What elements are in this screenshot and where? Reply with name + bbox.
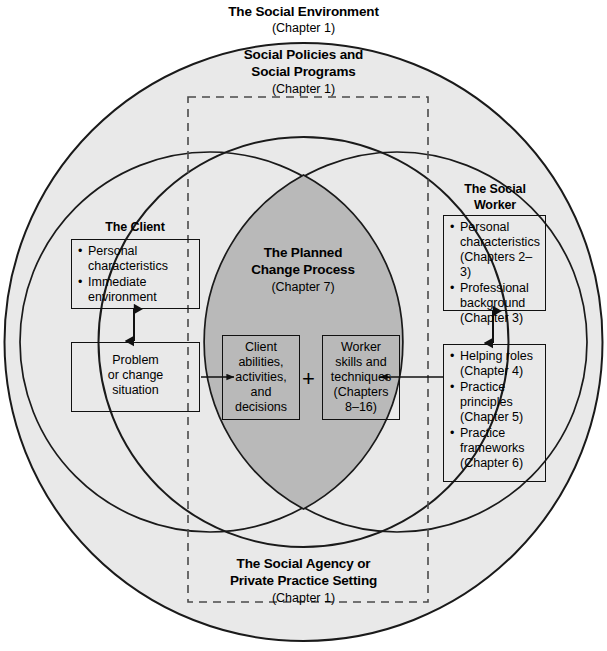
dashed-region-title-line2: Private Practice Setting xyxy=(0,573,607,589)
social-worker-skill-item: Practice frameworks (Chapter 6) xyxy=(460,426,541,471)
outer-ring-title: The Social Environment xyxy=(0,4,607,20)
outer-ring-chapter: (Chapter 1) xyxy=(0,21,607,36)
middle-ring-title-line2: Social Programs xyxy=(0,64,607,80)
client-abilities-line-3: activities, xyxy=(226,370,296,385)
center-title-line1: The Planned xyxy=(213,245,393,261)
problem-line-2: or change xyxy=(75,368,196,383)
plus-operator: + xyxy=(302,368,315,390)
social-worker-heading-line1: The Social xyxy=(435,182,555,197)
client-abilities-line-5: decisions xyxy=(226,400,296,415)
center-worker-skills-box: Worker skills and techniques (Chapters 8… xyxy=(322,335,400,420)
center-client-abilities-box: Client abilities, activities, and decisi… xyxy=(222,335,300,420)
client-attribute-item: Immediate environment xyxy=(88,275,195,305)
social-worker-attribute-item: Personal characteristics (Chapters 2–3) xyxy=(460,220,541,280)
social-worker-skill-item: Helping roles (Chapter 4) xyxy=(460,349,541,379)
client-attributes-box: Personal characteristics Immediate envir… xyxy=(71,239,200,309)
diagram-canvas: The Social Environment (Chapter 1) Socia… xyxy=(0,0,607,651)
client-attribute-item: Personal characteristics xyxy=(88,244,195,274)
client-heading: The Client xyxy=(70,220,200,235)
worker-skills-line-1: Worker xyxy=(326,340,396,355)
worker-skills-line-4: (Chapters xyxy=(326,385,396,400)
client-problem-box: Problem or change situation xyxy=(71,342,200,412)
client-abilities-line-2: abilities, xyxy=(226,355,296,370)
middle-ring-title-line1: Social Policies and xyxy=(0,47,607,63)
worker-skills-line-2: skills and xyxy=(326,355,396,370)
dashed-region-chapter: (Chapter 1) xyxy=(0,591,607,606)
problem-line-3: situation xyxy=(75,383,196,398)
middle-ring-chapter: (Chapter 1) xyxy=(0,82,607,97)
social-worker-skill-item: Practice principles (Chapter 5) xyxy=(460,380,541,425)
worker-skills-line-5: 8–16) xyxy=(326,400,396,415)
client-abilities-line-4: and xyxy=(226,385,296,400)
social-worker-attributes-box: Personal characteristics (Chapters 2–3) … xyxy=(443,215,546,311)
social-worker-attribute-item: Professional background (Chapter 3) xyxy=(460,281,541,326)
social-worker-skills-box: Helping roles (Chapter 4) Practice princ… xyxy=(443,344,546,482)
client-abilities-line-1: Client xyxy=(226,340,296,355)
center-title-line2: Change Process xyxy=(213,262,393,278)
problem-line-1: Problem xyxy=(75,353,196,368)
worker-skills-line-3: techniques xyxy=(326,370,396,385)
center-chapter: (Chapter 7) xyxy=(213,280,393,295)
dashed-region-title-line1: The Social Agency or xyxy=(0,556,607,572)
social-worker-heading-line2: Worker xyxy=(435,198,555,213)
